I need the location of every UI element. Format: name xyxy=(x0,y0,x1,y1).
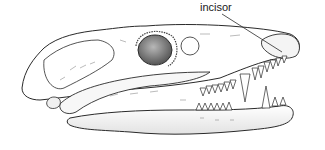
skull-diagram: incisor xyxy=(0,0,325,150)
orbit xyxy=(138,35,172,65)
skull-drawing xyxy=(0,0,325,150)
incisor-label: incisor xyxy=(200,1,232,13)
postorbital-bone xyxy=(181,37,199,55)
lower-jaw xyxy=(67,106,293,135)
jaw-hinge xyxy=(47,97,61,109)
